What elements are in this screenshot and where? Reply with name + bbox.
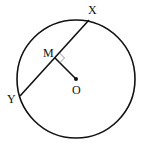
circle-chord-diagram: X Y M O [0, 0, 142, 148]
label-x: X [88, 3, 97, 17]
label-y: Y [7, 92, 16, 106]
right-angle-marker [60, 53, 65, 63]
center-point-o [74, 77, 78, 81]
label-o: O [72, 83, 81, 97]
label-m: M [43, 46, 54, 60]
segment-om [55, 58, 76, 79]
